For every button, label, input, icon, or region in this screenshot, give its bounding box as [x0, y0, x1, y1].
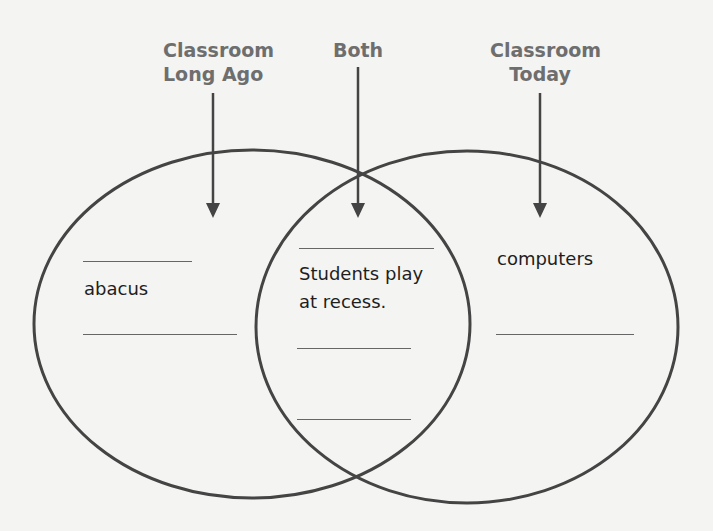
- entry-students-play-line2: at recess.: [299, 288, 386, 315]
- heading-both-line1: Both: [328, 38, 388, 62]
- blank-line[interactable]: [297, 348, 411, 349]
- left-circle: [34, 150, 470, 498]
- heading-long-ago-line2: Long Ago: [163, 62, 263, 86]
- blank-line[interactable]: [297, 419, 411, 420]
- heading-long-ago: Classroom Long Ago: [163, 38, 263, 86]
- entry-computers: computers: [497, 245, 593, 272]
- right-circle: [256, 151, 678, 503]
- blank-line[interactable]: [83, 334, 237, 335]
- heading-today: Classroom Today: [490, 38, 590, 86]
- arrow-today: [533, 93, 547, 218]
- arrow-long-ago: [206, 93, 220, 218]
- heading-both: Both: [328, 38, 388, 62]
- blank-line[interactable]: [83, 261, 192, 262]
- entry-students-play-line1: Students play: [299, 260, 423, 287]
- entry-abacus: abacus: [84, 275, 148, 302]
- heading-today-line2: Today: [490, 62, 590, 86]
- blank-line[interactable]: [496, 334, 634, 335]
- heading-today-line1: Classroom: [490, 38, 590, 62]
- heading-long-ago-line1: Classroom: [163, 38, 263, 62]
- blank-line[interactable]: [299, 248, 434, 249]
- arrow-both: [351, 67, 365, 218]
